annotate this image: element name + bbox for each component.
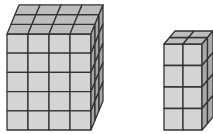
front-cell [70,34,91,53]
front-cell [70,111,91,130]
front-cell [49,92,70,111]
front-cell [164,44,183,66]
front-cell [183,87,202,109]
front-cell [183,44,202,66]
front-cell [183,66,202,88]
small-prism [164,31,213,130]
front-cell [7,72,28,91]
large-prism [7,5,103,130]
cube-diagram [0,0,213,134]
front-cell [49,111,70,130]
front-cell [164,66,183,88]
front-cell [183,109,202,131]
front-cell [7,34,28,53]
front-cell [28,53,49,72]
front-cell [28,34,49,53]
front-cell [49,72,70,91]
front-cell [70,92,91,111]
front-cell [7,92,28,111]
front-cell [7,111,28,130]
front-cell [164,109,183,131]
front-cell [49,53,70,72]
front-cell [70,53,91,72]
front-cell [164,87,183,109]
front-cell [28,72,49,91]
front-cell [7,53,28,72]
front-cell [49,34,70,53]
front-cell [70,72,91,91]
front-cell [28,111,49,130]
front-cell [28,92,49,111]
